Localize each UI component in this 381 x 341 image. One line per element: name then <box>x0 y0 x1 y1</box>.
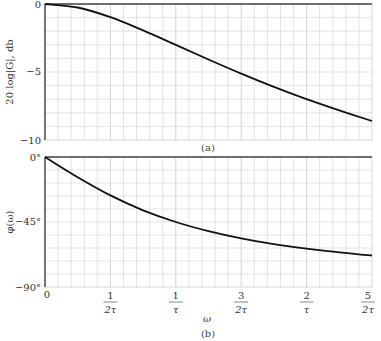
xtick-denominator: τ <box>304 304 310 315</box>
xtick-2: 1τ <box>169 290 183 315</box>
xtick-1: 12τ <box>103 290 117 315</box>
caption-a: (a) <box>201 142 215 153</box>
magnitude-plot: 0 −5 −10 20 log|G|, db (a) <box>4 0 372 153</box>
xtick-label: 0 <box>44 289 50 300</box>
xtick-denominator: τ <box>173 304 179 315</box>
phase-ylabel: φ(ω) <box>4 210 15 233</box>
phase-ytick-minus90: −90° <box>15 282 41 293</box>
phase-plot: 0° −45° −90° φ(ω) 012τ1τ32τ2τ52τ ω (b) <box>4 152 375 339</box>
omega-xticks: 012τ1τ32τ2τ52τ <box>44 289 375 315</box>
xtick-numerator: 1 <box>107 290 113 301</box>
omega-xlabel: ω <box>203 313 211 324</box>
magnitude-curve <box>45 4 372 121</box>
xtick-4: 2τ <box>300 290 314 315</box>
magnitude-ylabel: 20 log|G|, db <box>4 39 16 104</box>
magnitude-grid <box>45 4 372 140</box>
xtick-denominator: 2τ <box>361 304 374 315</box>
xtick-3: 32τ <box>234 290 248 315</box>
phase-ytick-minus45: −45° <box>15 216 41 227</box>
xtick-numerator: 5 <box>365 290 371 301</box>
xtick-numerator: 3 <box>238 290 244 301</box>
phase-curve <box>45 157 372 256</box>
xtick-denominator: 2τ <box>234 304 247 315</box>
xtick-numerator: 2 <box>303 290 309 301</box>
xtick-5: 52τ <box>361 290 375 315</box>
bode-plot: 0 −5 −10 20 log|G|, db (a) 0° −45° −90° … <box>0 0 381 341</box>
magnitude-ytick-minus10: −10 <box>20 135 41 146</box>
magnitude-ytick-minus5: −5 <box>26 66 41 77</box>
xtick-denominator: 2τ <box>103 304 116 315</box>
xtick-numerator: 1 <box>173 290 179 301</box>
phase-grid <box>45 157 372 287</box>
xtick-0: 0 <box>44 289 50 300</box>
phase-ytick-0: 0° <box>30 152 41 163</box>
magnitude-ytick-0: 0 <box>35 0 41 10</box>
caption-b: (b) <box>201 328 215 339</box>
